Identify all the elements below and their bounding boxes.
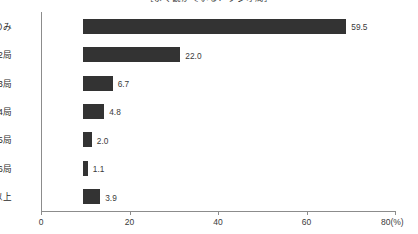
bar-row: 2局22.0 [41,40,395,68]
chart-footnote [0,228,418,234]
bar [83,104,104,119]
bar-value-label: 1.1 [93,165,105,173]
chart-title: ［よく観かている？ラジオ局］ [0,0,418,2]
bar [83,47,180,62]
category-label: 5局 [0,136,12,145]
bar [83,189,100,204]
bar-row: 4局4.8 [41,97,395,125]
x-tick-label: 60 [302,217,311,227]
bar-value-label: 3.9 [105,194,117,202]
category-label: 4局 [0,108,12,117]
bar-chart-figure: ［よく観かている？ラジオ局］ 1局のみ59.52局22.03局6.74局4.85… [0,0,418,234]
x-tick-label: 0 [39,217,44,227]
x-tick-label: 40 [213,217,222,227]
x-tick-label: 20 [125,217,134,227]
bar-row: 6局1.1 [41,154,395,182]
x-tick-mark [130,211,131,215]
bar [83,19,346,34]
category-label: 6局 [0,165,12,174]
bar-value-label: 4.8 [109,108,121,116]
x-tick-mark [307,211,308,215]
bar [83,132,92,147]
bar-row: 5局2.0 [41,126,395,154]
bar-row: 3局6.7 [41,69,395,97]
bar-row: 1局のみ59.5 [41,12,395,40]
category-label: 7局以上 [0,193,12,202]
category-label: 3局 [0,80,12,89]
bar-value-label: 6.7 [118,80,130,88]
bar [83,76,113,91]
x-tick-mark [395,211,396,215]
x-tick-mark [41,211,42,215]
x-tick-label: 80(%) [381,217,404,227]
bar-value-label: 22.0 [185,52,201,60]
plot-area: 1局のみ59.52局22.03局6.74局4.85局2.06局1.17局以上3.… [41,12,395,211]
bar [83,161,88,176]
x-tick-mark [218,211,219,215]
bar-value-label: 2.0 [97,137,109,145]
category-label: 1局のみ [0,23,12,32]
bar-row: 7局以上3.9 [41,183,395,211]
bar-value-label: 59.5 [351,23,367,31]
category-label: 2局 [0,51,12,60]
